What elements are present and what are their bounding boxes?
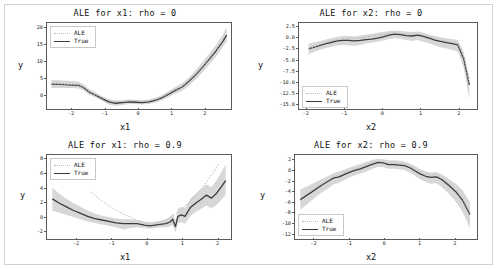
y-tick-mark	[44, 95, 46, 96]
x-tick-mark	[420, 108, 421, 110]
y-axis-label: y	[260, 190, 265, 200]
panel-title: ALE for x2: rho = 0.9	[258, 140, 484, 150]
legend-row-ale: ALE	[302, 217, 339, 225]
x-tick-label: 1	[181, 240, 184, 246]
panel-bottom-left: ALE for x1: rho = 0.9 y x1 -202468-2-101…	[14, 140, 236, 262]
figure-canvas: ALE for x1: rho = 0 y x1 05101520-2-1012…	[0, 0, 497, 269]
y-tick-mark	[296, 82, 298, 83]
x-tick-label: -1	[346, 240, 352, 246]
true-line-swatch-icon	[306, 98, 322, 105]
legend-row-true: True	[302, 225, 339, 233]
true-line-swatch-icon	[54, 38, 70, 45]
legend[interactable]: ALE True	[302, 86, 348, 108]
y-tick-mark	[44, 78, 46, 79]
y-tick-mark	[292, 191, 294, 192]
x-tick-label: -2	[73, 240, 79, 246]
y-tick-label: -2	[37, 228, 43, 234]
true-line-swatch-icon	[302, 226, 318, 233]
x-tick-label: 0	[145, 240, 148, 246]
ale-line-swatch-icon	[54, 30, 70, 37]
x-tick-mark	[147, 238, 148, 240]
y-tick-label: 2	[288, 156, 291, 162]
legend-label-true: True	[74, 37, 88, 45]
x-tick-mark	[384, 238, 385, 240]
legend[interactable]: ALE True	[298, 214, 344, 236]
y-tick-mark	[292, 202, 294, 203]
y-tick-mark	[44, 61, 46, 62]
legend-label-true: True	[322, 225, 336, 233]
x-axis-label: x1	[14, 252, 236, 262]
x-tick-mark	[111, 238, 112, 240]
y-tick-mark	[292, 223, 294, 224]
y-tick-label: -6	[285, 199, 291, 205]
x-axis-label: x2	[258, 122, 484, 132]
x-tick-label: 2	[457, 110, 460, 116]
y-tick-label: -2.5	[283, 45, 296, 51]
y-tick-label: 0	[40, 92, 43, 98]
legend-label-ale: ALE	[326, 89, 337, 97]
y-tick-label: 6	[40, 170, 43, 176]
y-tick-mark	[292, 212, 294, 213]
y-axis-label: y	[18, 60, 23, 70]
panel-top-left: ALE for x1: rho = 0 y x1 05101520-2-1012…	[14, 8, 236, 132]
x-tick-label: 1	[419, 110, 422, 116]
y-tick-mark	[296, 93, 298, 94]
y-tick-label: -10	[282, 220, 291, 226]
y-tick-label: 0	[40, 214, 43, 220]
legend[interactable]: ALE True	[50, 26, 96, 48]
y-tick-label: 2	[40, 199, 43, 205]
x-tick-mark	[71, 108, 72, 110]
y-tick-mark	[44, 173, 46, 174]
y-tick-mark	[44, 158, 46, 159]
x-tick-label: -2	[68, 110, 74, 116]
y-tick-mark	[296, 71, 298, 72]
x-tick-label: 2	[216, 240, 219, 246]
x-tick-label: 0	[136, 110, 139, 116]
x-tick-label: 2	[203, 110, 206, 116]
x-tick-mark	[138, 108, 139, 110]
legend-row-ale: ALE	[306, 89, 343, 97]
y-tick-mark	[44, 44, 46, 45]
y-tick-label: -4	[285, 188, 291, 194]
legend-row-true: True	[54, 169, 91, 177]
x-tick-label: -2	[303, 110, 309, 116]
panel-title: ALE for x2: rho = 0	[258, 8, 484, 18]
y-tick-mark	[296, 37, 298, 38]
x-tick-mark	[171, 108, 172, 110]
series-line-true	[309, 34, 470, 85]
y-tick-mark	[44, 27, 46, 28]
legend-row-true: True	[306, 97, 343, 105]
y-tick-label: -12	[282, 231, 291, 237]
x-tick-mark	[76, 238, 77, 240]
x-tick-mark	[419, 238, 420, 240]
y-tick-label: 2.5	[286, 23, 295, 29]
legend-label-ale: ALE	[322, 217, 333, 225]
y-tick-label: 10	[37, 58, 43, 64]
x-tick-mark	[205, 108, 206, 110]
x-tick-label: 1	[418, 240, 421, 246]
x-tick-label: 0	[383, 240, 386, 246]
x-tick-label: 0	[381, 110, 384, 116]
x-axis-label: x2	[258, 252, 484, 262]
y-tick-mark	[44, 217, 46, 218]
legend[interactable]: ALE True	[50, 158, 96, 180]
y-tick-mark	[296, 104, 298, 105]
y-tick-mark	[292, 159, 294, 160]
y-axis-label: y	[258, 60, 263, 70]
ale-line-swatch-icon	[306, 90, 322, 97]
x-tick-mark	[313, 238, 314, 240]
x-tick-label: -1	[341, 110, 347, 116]
panel-title: ALE for x1: rho = 0	[14, 8, 236, 18]
y-tick-label: -8	[285, 209, 291, 215]
y-tick-label: 20	[37, 24, 43, 30]
x-axis-label: x1	[14, 122, 236, 132]
ale-line-swatch-icon	[54, 162, 70, 169]
y-tick-label: -12.5	[279, 90, 295, 96]
x-tick-label: -2	[310, 240, 316, 246]
y-tick-mark	[296, 48, 298, 49]
x-tick-mark	[349, 238, 350, 240]
ale-line-swatch-icon	[302, 218, 318, 225]
y-tick-label: -10.0	[279, 79, 295, 85]
y-tick-label: 8	[40, 155, 43, 161]
y-tick-mark	[296, 60, 298, 61]
